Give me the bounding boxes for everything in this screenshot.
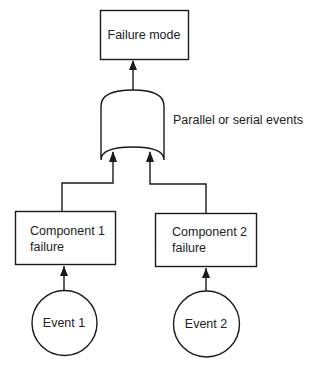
arrow-head-icon [202,268,210,278]
component1-label-line2: failure [30,240,64,254]
arrow-head-icon [109,151,117,162]
arrow-head-icon [60,266,68,276]
component1-label-line1: Component 1 [30,224,105,238]
fault-tree-diagram: Failure mode Parallel or serial events C… [0,0,309,371]
failure-mode-label: Failure mode [108,28,181,42]
component2-to-gate-connector [150,152,206,213]
event1-label: Event 1 [43,316,85,330]
component2-failure-box [156,214,257,267]
component1-failure-box [16,212,116,265]
arrow-head-icon [146,151,154,162]
component1-to-gate-connector [62,152,113,211]
gate-label: Parallel or serial events [173,113,303,127]
component2-label-line1: Component 2 [172,225,247,239]
event2-label: Event 2 [185,317,227,331]
component2-label-line2: failure [172,241,206,255]
or-gate-shape [101,90,164,160]
arrow-head-icon [129,60,137,70]
